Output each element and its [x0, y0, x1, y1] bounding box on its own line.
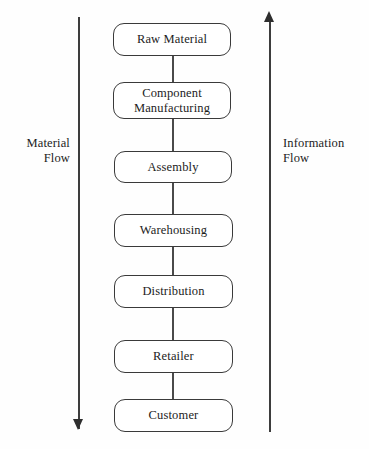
supply-chain-diagram: Material Flow Information Flow Raw Mater… [0, 0, 369, 449]
connector-component-manufacturing-to-assembly [172, 119, 173, 152]
connector-retailer-to-customer [172, 372, 173, 400]
material-flow-label: Material Flow [0, 136, 70, 167]
node-retailer[interactable]: Retailer [114, 340, 233, 373]
connector-warehousing-to-distribution [172, 246, 173, 276]
node-component-manufacturing-label-line1: Component [142, 86, 202, 101]
node-assembly-label: Assembly [147, 160, 198, 175]
node-warehousing[interactable]: Warehousing [114, 214, 233, 247]
node-assembly[interactable]: Assembly [114, 151, 232, 183]
node-warehousing-label: Warehousing [140, 223, 207, 238]
information-flow-axis [269, 20, 271, 432]
node-component-manufacturing-label-line2: Manufacturing [134, 101, 210, 116]
node-distribution[interactable]: Distribution [114, 275, 233, 308]
node-customer[interactable]: Customer [114, 399, 233, 432]
material-flow-arrowhead-icon [73, 419, 83, 430]
node-component-manufacturing[interactable]: Component Manufacturing [113, 82, 231, 119]
node-distribution-label: Distribution [142, 284, 204, 299]
node-customer-label: Customer [149, 408, 199, 423]
node-retailer-label: Retailer [153, 349, 194, 364]
node-raw-material-label: Raw Material [137, 32, 207, 47]
information-flow-label: Information Flow [283, 136, 369, 167]
material-flow-axis [78, 17, 80, 429]
connector-assembly-to-warehousing [172, 182, 173, 215]
information-flow-arrowhead-icon [264, 11, 274, 22]
node-raw-material[interactable]: Raw Material [113, 23, 231, 56]
connector-distribution-to-retailer [172, 307, 173, 341]
connector-raw-material-to-component-manufacturing [172, 55, 173, 82]
